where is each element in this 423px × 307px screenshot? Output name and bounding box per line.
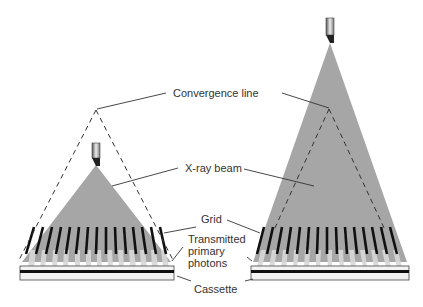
xray-beam-label: X-ray beam — [184, 162, 243, 174]
left-panel — [18, 110, 174, 280]
left-xray-tube-icon — [92, 143, 100, 166]
grid-label: Grid — [200, 213, 223, 225]
right-panel — [251, 18, 409, 280]
convergence-line-label: Convergence line — [172, 87, 260, 99]
grid-focus-diagram: Convergence line X-ray beam Grid Transmi… — [0, 0, 423, 307]
right-xray-beam — [253, 43, 407, 262]
transmitted-primary-photons-label: Transmitted primary photons — [187, 233, 247, 269]
right-xray-tube-icon — [326, 18, 334, 43]
left-cassette — [20, 266, 174, 280]
cassette-label: Cassette — [193, 283, 238, 295]
right-cassette — [251, 266, 409, 280]
